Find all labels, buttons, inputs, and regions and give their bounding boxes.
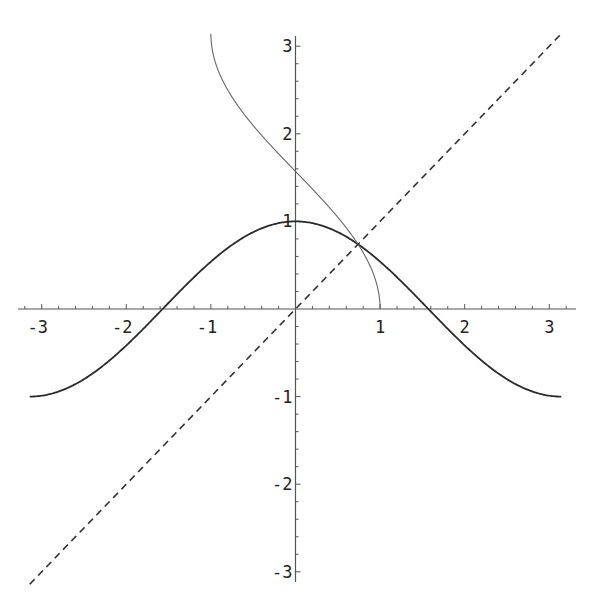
y-tick-label: 2 <box>282 124 292 144</box>
y-tick-label: -3 <box>272 562 292 582</box>
x-tick-label: -1 <box>197 317 217 337</box>
y-tick-label: -2 <box>272 474 292 494</box>
x-tick-label: -3 <box>27 317 47 337</box>
x-tick-label: 2 <box>460 317 470 337</box>
x-tick-label: 3 <box>544 317 554 337</box>
y-tick-label: 3 <box>282 36 292 56</box>
x-tick-label: 1 <box>375 317 385 337</box>
y-tick-label: -1 <box>272 387 292 407</box>
y-tick-label: 1 <box>282 211 292 231</box>
x-tick-label: -2 <box>112 317 132 337</box>
plot-area: -3-2-1123-3-2-1123 <box>0 0 594 605</box>
axes <box>18 36 576 582</box>
